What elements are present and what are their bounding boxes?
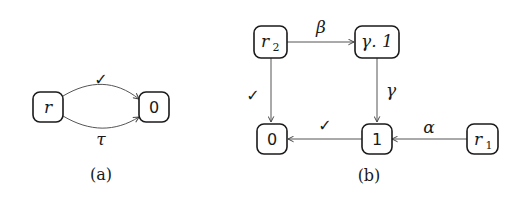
edge-label-a-check: ✓	[94, 70, 107, 89]
node-b-zero: 0	[257, 124, 287, 154]
node-b-gamma1-label: γ. 1	[361, 31, 393, 51]
caption-a: (a)	[90, 165, 112, 184]
node-b-r2: r 2	[254, 26, 287, 58]
diagram-b: β ✓ γ ✓ α r 2 γ. 1 0 1 r 1 (b)	[246, 17, 498, 185]
edge-label-a-tau: τ	[96, 129, 106, 149]
node-a-zero-label: 0	[149, 98, 159, 117]
caption-b: (b)	[358, 166, 381, 185]
node-a-zero: 0	[139, 92, 169, 122]
node-b-r1: r 1	[467, 124, 498, 154]
node-b-one: 1	[362, 124, 392, 154]
edge-a-tau	[63, 116, 139, 128]
node-b-gamma1: γ. 1	[355, 26, 399, 58]
node-b-r1-label: r	[474, 129, 483, 149]
edge-label-b-alpha: α	[423, 117, 435, 137]
node-b-zero-label: 0	[267, 130, 277, 149]
node-a-r: r	[33, 92, 63, 122]
node-b-r2-subscript: 2	[273, 41, 280, 54]
node-b-r2-label: r	[261, 31, 270, 51]
edge-label-b-r2-zero: ✓	[246, 86, 259, 105]
diagram-canvas: ✓ τ r 0 (a) β ✓ γ ✓ α r 2	[0, 0, 529, 202]
diagram-a: ✓ τ r 0 (a)	[33, 70, 169, 184]
node-b-one-label: 1	[372, 130, 382, 149]
edge-label-b-one-zero: ✓	[318, 116, 331, 135]
edge-label-b-gamma: γ	[386, 80, 397, 100]
edge-label-b-beta: β	[315, 17, 326, 37]
node-a-r-label: r	[44, 97, 53, 117]
node-b-r1-subscript: 1	[486, 139, 493, 152]
